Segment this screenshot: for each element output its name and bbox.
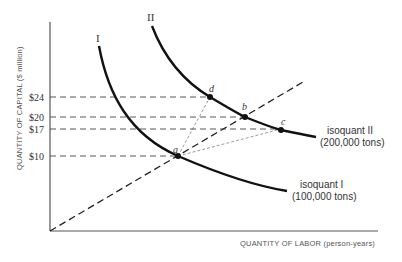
isoquant-II-curve (152, 26, 316, 137)
point-c (278, 127, 284, 133)
point-d-label: d (209, 83, 215, 94)
x-axis-label: QUANTITY OF LABOR (person-years) (240, 239, 375, 248)
point-b-label: b (242, 101, 247, 112)
tick-10: $10 (29, 151, 44, 162)
tick-17: $17 (29, 124, 44, 135)
isoquant-II-label: isoquant II (327, 125, 373, 136)
isoquant-I-curve (99, 46, 287, 191)
point-c-label: c (281, 116, 286, 127)
point-d (207, 94, 213, 100)
tick-20: $20 (29, 112, 44, 123)
y-axis-label: QUANTITY OF CAPITAL ($ million) (15, 46, 24, 170)
line-a-d (178, 97, 210, 156)
point-a-label: a (173, 144, 178, 155)
isoquant-diagram: a b c d I II $24 $20 $17 $10 isoquant II… (0, 0, 402, 262)
isoquant-I-label: isoquant I (300, 179, 343, 190)
point-b (242, 114, 248, 120)
isoquant-II-output: (200,000 tons) (320, 137, 385, 148)
curve-I-tag: I (96, 32, 100, 44)
line-a-c (178, 129, 281, 156)
tick-24: $24 (29, 92, 44, 103)
isoquant-I-output: (100,000 tons) (292, 191, 357, 202)
curve-II-tag: II (147, 11, 155, 23)
